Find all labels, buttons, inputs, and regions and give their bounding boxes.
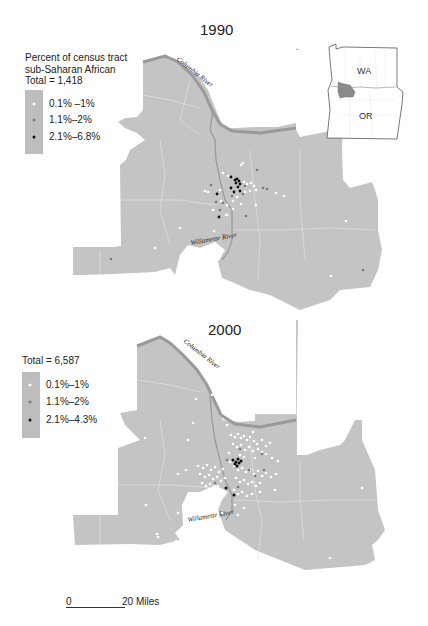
map-2000: Columbia River Willamette River <box>0 0 428 626</box>
scale-bar-line <box>66 607 125 608</box>
map-region-2000 <box>73 320 385 570</box>
scale-bar-end: 20 Miles <box>122 596 159 607</box>
scale-bar-start: 0 <box>66 596 72 607</box>
